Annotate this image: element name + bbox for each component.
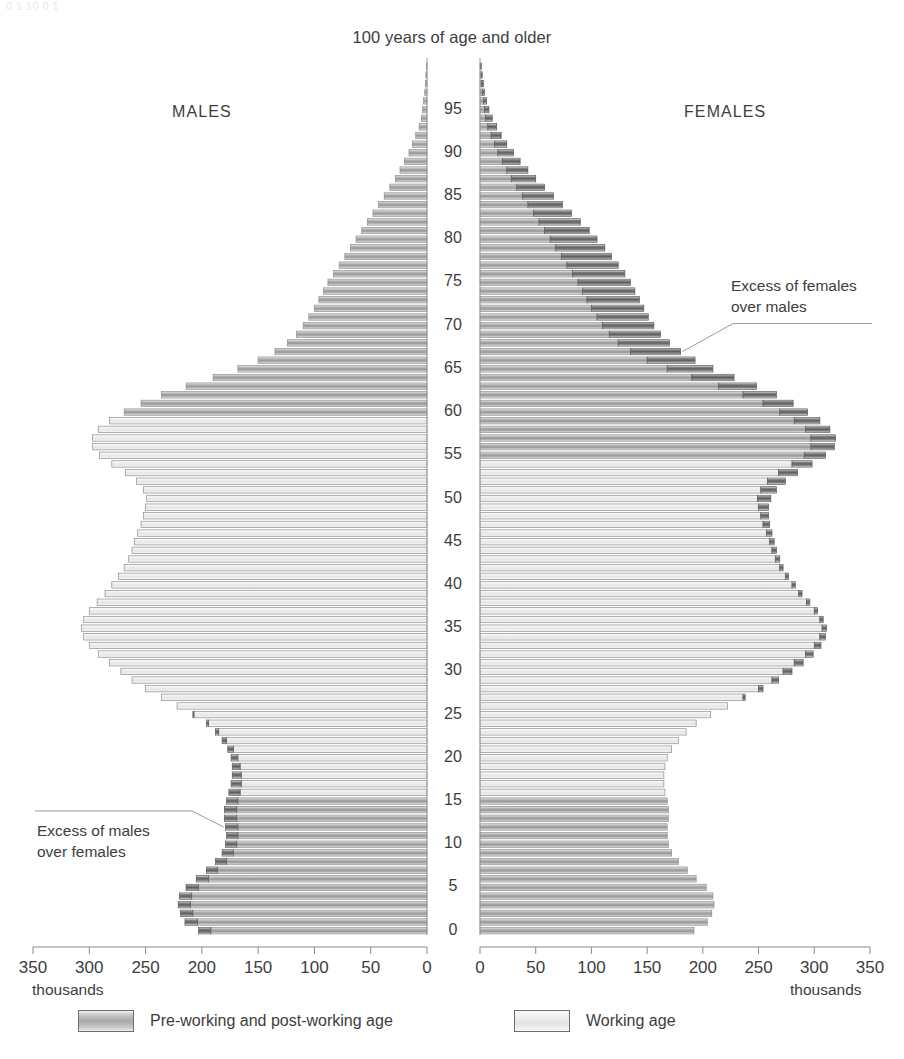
left-axis-tick-150: 150 bbox=[234, 958, 282, 978]
right-axis-tick-300: 300 bbox=[790, 958, 838, 978]
annotation-excess-males: Excess of males over females bbox=[37, 820, 150, 862]
left-axis-tick-350: 350 bbox=[9, 958, 57, 978]
age-tick-60: 60 bbox=[433, 402, 473, 420]
age-tick-85: 85 bbox=[433, 186, 473, 204]
age-tick-15: 15 bbox=[433, 791, 473, 809]
annotation-excess-females-line1: Excess of females bbox=[731, 275, 857, 296]
legend-swatch-working bbox=[514, 1010, 570, 1032]
right-axis-tick-150: 150 bbox=[623, 958, 671, 978]
age-tick-70: 70 bbox=[433, 316, 473, 334]
age-tick-75: 75 bbox=[433, 272, 473, 290]
right-axis-tick-250: 250 bbox=[735, 958, 783, 978]
left-axis-tick-300: 300 bbox=[65, 958, 113, 978]
right-axis-tick-200: 200 bbox=[679, 958, 727, 978]
annotation-excess-females: Excess of females over males bbox=[731, 275, 857, 317]
legend-swatch-pre-post-working bbox=[78, 1010, 134, 1032]
age-tick-55: 55 bbox=[433, 445, 473, 463]
legend: Pre-working and post-working age Working… bbox=[0, 1004, 904, 1044]
age-tick-30: 30 bbox=[433, 661, 473, 679]
age-tick-40: 40 bbox=[433, 575, 473, 593]
annotation-excess-females-line2: over males bbox=[731, 296, 857, 317]
annotation-excess-males-line1: Excess of males bbox=[37, 820, 150, 841]
legend-label-working: Working age bbox=[586, 1012, 676, 1030]
legend-label-pre-post-working: Pre-working and post-working age bbox=[150, 1012, 393, 1030]
age-tick-5: 5 bbox=[433, 877, 473, 895]
age-tick-35: 35 bbox=[433, 618, 473, 636]
right-axis-unit-label: thousands bbox=[790, 981, 862, 999]
left-axis-tick-0: 0 bbox=[403, 958, 451, 978]
age-tick-45: 45 bbox=[433, 532, 473, 550]
legend-item-pre-post-working: Pre-working and post-working age bbox=[78, 1010, 393, 1032]
age-tick-25: 25 bbox=[433, 705, 473, 723]
annotation-excess-males-line2: over females bbox=[37, 841, 150, 862]
right-axis-tick-350: 350 bbox=[846, 958, 894, 978]
age-tick-20: 20 bbox=[433, 748, 473, 766]
left-axis-tick-250: 250 bbox=[122, 958, 170, 978]
age-tick-90: 90 bbox=[433, 143, 473, 161]
age-tick-80: 80 bbox=[433, 229, 473, 247]
age-tick-65: 65 bbox=[433, 359, 473, 377]
age-tick-10: 10 bbox=[433, 834, 473, 852]
right-axis-tick-0: 0 bbox=[456, 958, 504, 978]
age-tick-50: 50 bbox=[433, 489, 473, 507]
age-tick-95: 95 bbox=[433, 100, 473, 118]
left-axis-tick-100: 100 bbox=[290, 958, 338, 978]
legend-item-working: Working age bbox=[514, 1010, 676, 1032]
left-axis-tick-50: 50 bbox=[347, 958, 395, 978]
right-axis-tick-50: 50 bbox=[512, 958, 560, 978]
right-axis-tick-100: 100 bbox=[567, 958, 615, 978]
left-axis-unit-label: thousands bbox=[32, 981, 104, 999]
left-axis-tick-200: 200 bbox=[178, 958, 226, 978]
age-tick-0: 0 bbox=[433, 921, 473, 939]
